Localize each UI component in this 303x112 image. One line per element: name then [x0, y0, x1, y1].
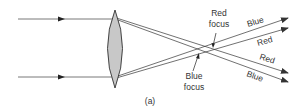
blue-focus-label: focus: [184, 82, 204, 92]
arrow-icon: [212, 43, 216, 48]
incoming-ray-top: [18, 17, 116, 22]
blue-focus-label: Blue: [185, 71, 202, 81]
figure-caption: (a): [145, 96, 156, 106]
red-focus-label: Red: [211, 8, 227, 18]
ray-label-red-bottom: Red: [258, 51, 276, 65]
incoming-ray-bottom: [18, 75, 116, 80]
ray-label-blue-bottom: Blue: [245, 68, 265, 83]
arrow-icon: [58, 75, 65, 80]
red-focus-label: focus: [209, 19, 229, 29]
lens: [108, 10, 123, 88]
arrow-icon: [196, 53, 200, 59]
chromatic-aberration-diagram: Red focus Blue focus Blue Red Red Blue (…: [0, 0, 303, 112]
ray-label-red-top: Red: [256, 34, 274, 48]
arrow-icon: [58, 17, 65, 22]
